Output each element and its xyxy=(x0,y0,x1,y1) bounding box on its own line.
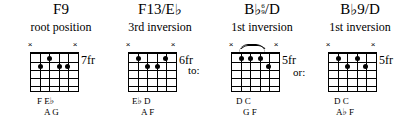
chord-notes-top: D C xyxy=(236,96,251,106)
chord-notes-bottom: A♭ F xyxy=(336,107,354,117)
fret-dot xyxy=(355,56,360,61)
chord-title: B♭69/D xyxy=(212,1,312,18)
fret-dot xyxy=(345,64,350,69)
flat-symbol-icon: ♭ xyxy=(175,2,182,18)
chord-diagram-f13-eb-3rd-inversion: F13/E♭ 3rd inversion × × 6fr E♭ D xyxy=(110,0,210,125)
chord-title: B♭9/D xyxy=(310,1,405,18)
fretboard-grid-wrapper: × × 7fr xyxy=(30,52,79,92)
chord-title-suffix: /D xyxy=(265,1,280,17)
fret-dot xyxy=(57,64,62,69)
chord-title-text: F9 xyxy=(53,1,69,17)
chord-notes-top: E♭ D xyxy=(132,96,151,106)
chord-title-text: B xyxy=(340,1,350,17)
flat-symbol-icon: ♭ xyxy=(254,2,261,18)
figure-bottom: 9 xyxy=(261,9,265,15)
chord-title-suffix: 9/D xyxy=(357,1,380,17)
chord-notes-top: F E♭ xyxy=(37,96,54,106)
chord-notes-bottom: A F xyxy=(141,107,154,117)
chord-diagram-bb9-d-1st-inversion: B♭9/D 1st inversion × × 5fr D C xyxy=(310,0,405,125)
chord-notes-bottom: A G xyxy=(44,107,59,117)
chord-subtitle: root position xyxy=(11,20,111,34)
connector-to-label: to: xyxy=(188,64,200,76)
muted-string-marker-1: × xyxy=(369,41,377,49)
fretboard-grid-wrapper: × × 6fr xyxy=(128,52,177,92)
muted-string-marker-6: × xyxy=(324,41,332,49)
fret-dot xyxy=(38,64,43,69)
fret-position-label: 5fr xyxy=(282,54,296,66)
fret-dot xyxy=(266,64,271,69)
fret-dot xyxy=(336,56,341,61)
fret-dot xyxy=(65,64,70,69)
fret-dot xyxy=(47,56,52,61)
fret-dot xyxy=(145,64,150,69)
chord-notes-bottom: G F xyxy=(243,107,257,117)
fret-dot xyxy=(239,56,244,61)
chord-diagram-f9-root-position: F9 root position × × 7fr F E♭ A xyxy=(11,0,111,125)
muted-string-marker-1: × xyxy=(71,41,79,49)
muted-string-marker-1: × xyxy=(169,41,177,49)
fretboard-grid xyxy=(328,52,377,92)
chord-chart-sheet: F9 root position × × 7fr F E♭ A xyxy=(0,0,405,125)
fretboard-grid xyxy=(30,52,79,92)
muted-string-marker-6: × xyxy=(227,41,235,49)
muted-string-marker-6: × xyxy=(124,41,132,49)
chord-title: F13/E♭ xyxy=(110,1,210,18)
connector-or-label: or: xyxy=(293,66,305,78)
chord-title: F9 xyxy=(11,1,111,18)
fret-position-label: 7fr xyxy=(81,54,95,66)
fret-dot xyxy=(248,56,253,61)
chord-diagram-bb69-d-1st-inversion: B♭69/D 1st inversion × × 5fr D xyxy=(212,0,312,125)
six-nine-figure: 69 xyxy=(261,3,265,15)
fret-position-label: 5fr xyxy=(379,54,393,66)
chord-subtitle: 1st inversion xyxy=(212,20,312,34)
muted-string-marker-1: × xyxy=(272,41,280,49)
fret-dot xyxy=(258,56,263,61)
chord-subtitle: 1st inversion xyxy=(310,20,405,34)
fret-dot xyxy=(363,64,368,69)
chord-notes-top: D C xyxy=(334,96,349,106)
chord-title-text: B xyxy=(244,1,254,17)
fretboard-grid-wrapper: × × 5fr xyxy=(231,52,280,92)
muted-string-marker-6: × xyxy=(26,41,34,49)
fret-dot xyxy=(155,64,160,69)
fretboard-grid xyxy=(231,52,280,92)
fret-dot xyxy=(163,56,168,61)
chord-subtitle: 3rd inversion xyxy=(110,20,210,34)
fretboard-grid-wrapper: × × 5fr xyxy=(328,52,377,92)
fretboard-grid xyxy=(128,52,177,92)
chord-title-text: F13/E xyxy=(138,1,175,17)
fret-dot xyxy=(136,56,141,61)
flat-symbol-icon: ♭ xyxy=(350,2,357,18)
